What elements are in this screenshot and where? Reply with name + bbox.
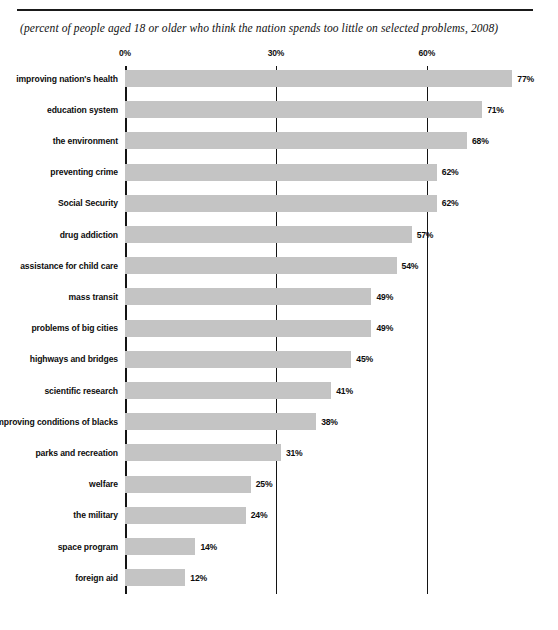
bar-row: problems of big cities49% (0, 320, 558, 337)
bar-rect (125, 132, 467, 149)
bar-category-label: drug addiction (60, 230, 118, 240)
bar-rect (125, 101, 482, 118)
bar-row: improving conditions of blacks38% (0, 413, 558, 430)
bar-rect (125, 538, 195, 555)
bar-row: the military24% (0, 507, 558, 524)
axis-tick-label: 0% (119, 48, 131, 58)
bar-rect (125, 382, 331, 399)
bar-row: preventing crime62% (0, 164, 558, 181)
bar-rect (125, 164, 437, 181)
bar-row: foreign aid12% (0, 569, 558, 586)
bar-row: drug addiction57% (0, 226, 558, 243)
bar-category-label: foreign aid (75, 573, 118, 583)
bar-category-label: welfare (89, 479, 118, 489)
bar-category-label: highways and bridges (30, 354, 118, 364)
bar-value-label: 62% (442, 198, 459, 208)
bar-value-label: 62% (442, 167, 459, 177)
bar-category-label: improving nation's health (16, 74, 118, 84)
bar-category-label: problems of big cities (31, 323, 118, 333)
bar-category-label: the environment (53, 136, 118, 146)
bar-category-label: space program (58, 542, 118, 552)
bar-rect (125, 320, 371, 337)
bar-rect (125, 70, 512, 87)
bar-row: assistance for child care54% (0, 257, 558, 274)
bar-row: the environment68% (0, 132, 558, 149)
bar-value-label: 77% (517, 74, 534, 84)
bar-value-label: 25% (256, 479, 273, 489)
bar-value-label: 68% (472, 136, 489, 146)
bar-value-label: 54% (402, 261, 419, 271)
bar-chart-figure: (percent of people aged 18 or older who … (0, 0, 558, 630)
chart-subtitle: (percent of people aged 18 or older who … (20, 22, 540, 34)
bar-row: welfare25% (0, 476, 558, 493)
bar-row: education system71% (0, 101, 558, 118)
bar-row: scientific research41% (0, 382, 558, 399)
bar-rect (125, 257, 397, 274)
bar-rect (125, 413, 316, 430)
bar-row: Social Security62% (0, 195, 558, 212)
bar-value-label: 49% (376, 323, 393, 333)
bar-row: improving nation's health77% (0, 70, 558, 87)
bar-rect (125, 476, 251, 493)
axis-tick-label: 60% (419, 48, 435, 58)
bar-category-label: assistance for child care (20, 261, 118, 271)
bar-rect (125, 351, 351, 368)
bar-rect (125, 444, 281, 461)
top-divider-rule (17, 9, 533, 11)
bar-value-label: 12% (190, 573, 207, 583)
bar-category-label: preventing crime (50, 167, 118, 177)
bar-rect (125, 569, 185, 586)
bar-category-label: the military (73, 510, 118, 520)
bar-rect (125, 226, 412, 243)
bar-row: mass transit49% (0, 288, 558, 305)
bar-category-label: Social Security (58, 198, 118, 208)
bar-category-label: mass transit (69, 292, 118, 302)
bar-row: space program14% (0, 538, 558, 555)
bar-category-label: education system (47, 105, 118, 115)
bar-category-label: scientific research (44, 386, 118, 396)
bar-value-label: 24% (251, 510, 268, 520)
bar-rect (125, 507, 246, 524)
bar-value-label: 31% (286, 448, 303, 458)
bar-row: highways and bridges45% (0, 351, 558, 368)
bar-value-label: 45% (356, 354, 373, 364)
bar-value-label: 41% (336, 386, 353, 396)
bar-value-label: 57% (417, 230, 434, 240)
bar-rect (125, 288, 371, 305)
bar-value-label: 38% (321, 417, 338, 427)
bar-rect (125, 195, 437, 212)
bar-value-label: 49% (376, 292, 393, 302)
bar-category-label: improving conditions of blacks (0, 417, 118, 427)
bar-row: parks and recreation31% (0, 444, 558, 461)
bar-value-label: 14% (200, 542, 217, 552)
plot-area: 0%30%60%improving nation's health77%educ… (0, 48, 558, 623)
bar-category-label: parks and recreation (35, 448, 118, 458)
bar-value-label: 71% (487, 105, 504, 115)
axis-tick-label: 30% (268, 48, 284, 58)
